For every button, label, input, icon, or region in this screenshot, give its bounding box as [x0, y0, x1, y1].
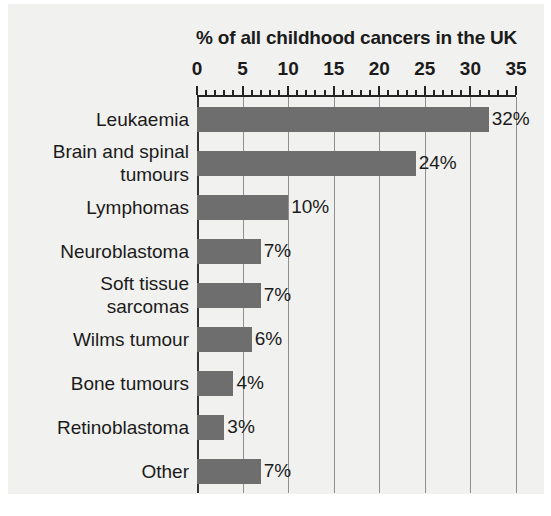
bar-value-label: 10%	[288, 196, 329, 218]
x-axis-minor-tick	[460, 90, 462, 95]
bar	[197, 415, 224, 440]
x-axis-minor-tick	[251, 90, 253, 95]
bar-row: 3%	[197, 415, 516, 440]
x-axis-minor-tick	[360, 90, 362, 95]
x-axis-minor-tick	[314, 90, 316, 95]
category-label: Neuroblastoma	[10, 240, 189, 263]
x-axis-minor-tick	[296, 90, 298, 95]
bar-value-label: 6%	[252, 328, 282, 350]
bar	[197, 195, 288, 220]
x-axis-minor-tick	[232, 90, 234, 95]
x-axis-minor-tick	[397, 90, 399, 95]
category-label: Other	[10, 460, 189, 483]
x-axis-minor-tick	[205, 90, 207, 95]
x-axis-minor-tick	[406, 90, 408, 95]
category-label: Soft tissue sarcomas	[10, 272, 189, 318]
x-tick-label: 10	[278, 58, 299, 80]
bar	[197, 327, 252, 352]
category-labels: LeukaemiaBrain and spinal tumoursLymphom…	[10, 97, 189, 493]
x-axis-major-tick	[424, 86, 426, 95]
bar-row: 24%	[197, 151, 516, 176]
bar	[197, 239, 261, 264]
gridline	[516, 97, 517, 493]
bar-row: 7%	[197, 239, 516, 264]
bar-value-label: 24%	[416, 152, 457, 174]
x-axis-minor-tick	[442, 90, 444, 95]
x-axis-tick-labels: 05101520253035	[197, 58, 516, 82]
bar	[197, 107, 489, 132]
x-axis-minor-tick	[506, 90, 508, 95]
x-tick-label: 5	[237, 58, 248, 80]
x-axis-minor-tick	[260, 90, 262, 95]
bar-value-label: 4%	[233, 372, 263, 394]
category-label: Bone tumours	[10, 372, 189, 395]
bar-value-label: 7%	[261, 284, 291, 306]
x-axis-minor-tick	[269, 90, 271, 95]
x-axis	[197, 86, 516, 97]
x-axis-minor-tick	[497, 90, 499, 95]
category-label: Leukaemia	[10, 108, 189, 131]
chart-figure: % of all childhood cancers in the UK 051…	[0, 0, 551, 516]
bar-value-label: 32%	[489, 108, 530, 130]
x-axis-major-tick	[287, 86, 289, 95]
x-tick-label: 15	[323, 58, 344, 80]
x-axis-minor-tick	[479, 90, 481, 95]
x-tick-label: 0	[192, 58, 203, 80]
x-axis-major-tick	[469, 86, 471, 95]
x-tick-label: 25	[414, 58, 435, 80]
bar	[197, 283, 261, 308]
bar-row: 32%	[197, 107, 516, 132]
bar-value-label: 7%	[261, 460, 291, 482]
category-label: Brain and spinal tumours	[10, 140, 189, 186]
bar-row: 4%	[197, 371, 516, 396]
plot-area: 32%24%10%7%7%6%4%3%7%	[197, 97, 516, 493]
x-axis-major-tick	[378, 86, 380, 95]
bar-row: 6%	[197, 327, 516, 352]
x-axis-minor-tick	[387, 90, 389, 95]
x-axis-minor-tick	[433, 90, 435, 95]
x-axis-minor-tick	[214, 90, 216, 95]
bar-row: 7%	[197, 459, 516, 484]
bar-value-label: 3%	[224, 416, 254, 438]
x-axis-major-tick	[242, 86, 244, 95]
x-tick-label: 35	[505, 58, 526, 80]
x-axis-minor-tick	[415, 90, 417, 95]
x-tick-label: 30	[460, 58, 481, 80]
bar-row: 7%	[197, 283, 516, 308]
bar	[197, 371, 233, 396]
bar-value-label: 7%	[261, 240, 291, 262]
x-axis-minor-tick	[324, 90, 326, 95]
bar	[197, 151, 416, 176]
x-tick-label: 20	[369, 58, 390, 80]
x-axis-minor-tick	[351, 90, 353, 95]
x-axis-minor-tick	[369, 90, 371, 95]
x-axis-minor-tick	[451, 90, 453, 95]
x-axis-minor-tick	[305, 90, 307, 95]
category-label: Wilms tumour	[10, 328, 189, 351]
x-axis-major-tick	[196, 86, 198, 95]
x-axis-minor-tick	[488, 90, 490, 95]
category-label: Retinoblastoma	[10, 416, 189, 439]
chart-title: % of all childhood cancers in the UK	[196, 27, 526, 49]
x-axis-minor-tick	[223, 90, 225, 95]
x-axis-minor-tick	[278, 90, 280, 95]
x-axis-minor-tick	[342, 90, 344, 95]
bar	[197, 459, 261, 484]
x-axis-major-tick	[515, 86, 517, 95]
category-label: Lymphomas	[10, 196, 189, 219]
x-axis-major-tick	[333, 86, 335, 95]
bar-row: 10%	[197, 195, 516, 220]
